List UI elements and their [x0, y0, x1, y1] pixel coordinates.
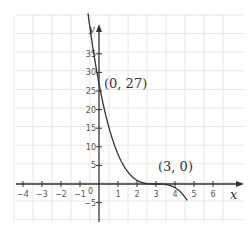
svg-text:−3: −3	[36, 190, 48, 199]
x-axis-label: x	[230, 187, 238, 202]
svg-text:5: 5	[191, 190, 196, 199]
svg-text:5: 5	[91, 161, 96, 170]
svg-text:15: 15	[86, 124, 96, 133]
svg-text:10: 10	[86, 143, 96, 152]
annotation-inflection: (3, 0)	[158, 159, 193, 174]
svg-text:25: 25	[86, 87, 96, 96]
y-axis-label: y	[88, 23, 95, 34]
svg-text:−5: −5	[84, 199, 96, 208]
svg-text:20: 20	[86, 106, 96, 115]
svg-text:1: 1	[115, 190, 120, 199]
svg-text:0: 0	[88, 187, 93, 196]
svg-text:6: 6	[210, 190, 215, 199]
svg-text:30: 30	[86, 68, 96, 77]
svg-text:3: 3	[153, 190, 158, 199]
svg-text:−2: −2	[55, 190, 67, 199]
svg-text:−4: −4	[17, 190, 29, 199]
svg-text:2: 2	[134, 190, 139, 199]
svg-text:4: 4	[172, 190, 177, 199]
annotation-y-intercept: (0, 27)	[104, 76, 147, 91]
chart: −4−3−2−1123456−551015202530350 (0, 27) (…	[0, 0, 252, 225]
